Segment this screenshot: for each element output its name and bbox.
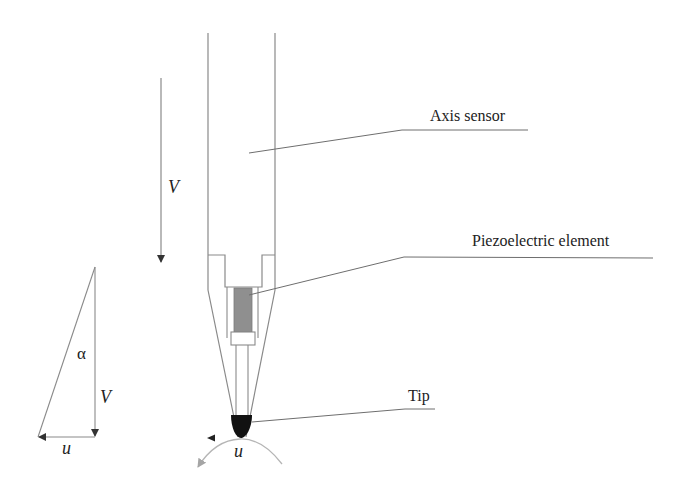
velocity-label: V — [168, 177, 181, 197]
collar-block — [231, 332, 255, 345]
axis-sensor-label: Axis sensor — [430, 107, 506, 124]
diagram-canvas: V u Axis sensor Piezoelec — [0, 0, 683, 486]
velocity-triangle — [38, 267, 95, 437]
angle-alpha-label: α — [77, 344, 86, 363]
probe-shaft — [208, 33, 275, 437]
tip-tangential-label: u — [234, 441, 243, 461]
triangle-tangential-label: u — [62, 438, 71, 458]
axis-sensor-leader — [249, 130, 528, 153]
tip-leader — [252, 409, 435, 422]
tangential-direction-arrowhead — [207, 435, 215, 442]
piezoelectric-leader — [249, 257, 653, 295]
probe-tip — [231, 415, 252, 438]
tip-stem — [236, 345, 248, 416]
tip-label: Tip — [408, 387, 430, 405]
triangle-hypotenuse — [38, 267, 95, 437]
probe-diagram: V u Axis sensor Piezoelec — [0, 0, 683, 486]
piezoelectric-label: Piezoelectric element — [472, 232, 610, 249]
triangle-velocity-label: V — [100, 387, 113, 407]
